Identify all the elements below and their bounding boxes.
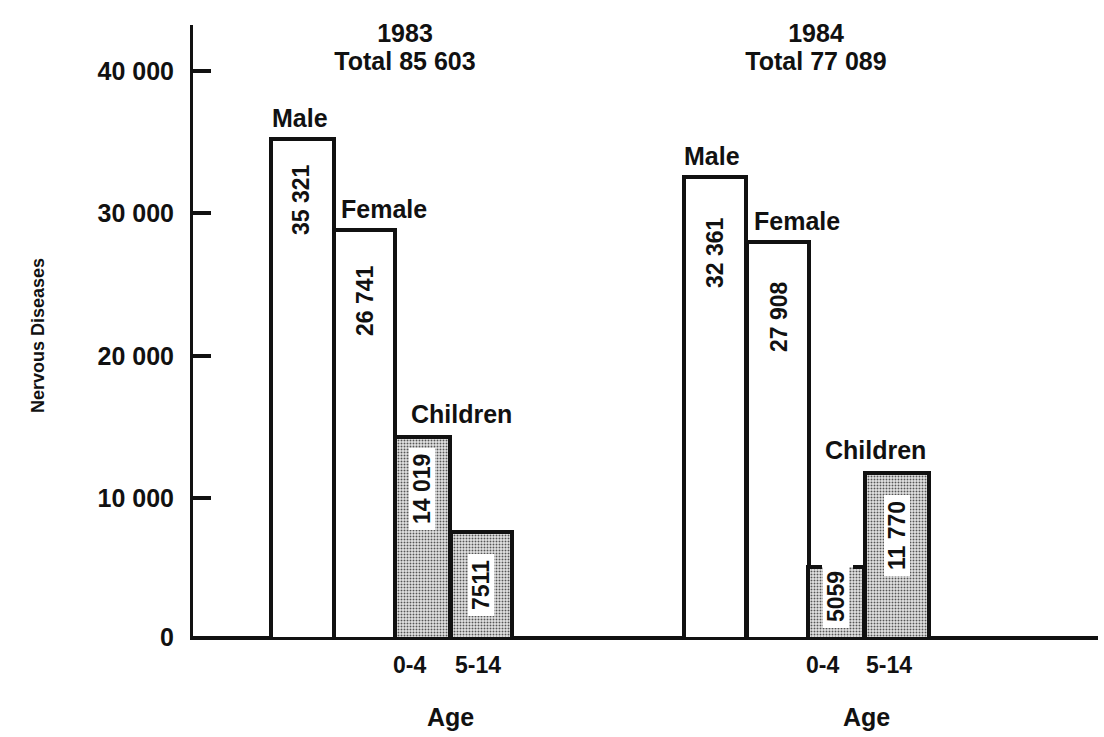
x-label-5-14-1984: 5-14 — [866, 652, 912, 678]
panel-1984-total: Total 77 089 — [716, 46, 916, 76]
y-tick-label-10000: 10 000 — [34, 484, 174, 512]
value-female-1984: 27 908 — [766, 282, 792, 352]
panel-1983-total: Total 85 603 — [305, 46, 505, 76]
x-axis-title-1983: Age — [427, 703, 474, 731]
value-children-5-14-1983: 7511 — [468, 554, 494, 616]
value-male-1984: 32 361 — [702, 218, 728, 288]
value-male-1983: 35 321 — [288, 165, 314, 235]
y-axis-line — [190, 25, 193, 640]
value-children-0-4-1984: 5059 — [823, 565, 849, 628]
y-tick-label-40000: 40 000 — [34, 57, 174, 85]
y-axis-title: Nervous Diseases — [28, 256, 49, 416]
x-label-5-14-1983: 5-14 — [455, 652, 501, 678]
y-tick-10000 — [192, 496, 211, 500]
y-tick-20000 — [192, 354, 211, 358]
x-axis-title-1984: Age — [843, 703, 890, 731]
bar-label-male-1984: Male — [684, 142, 740, 170]
bar-top-stub-left-1984 — [806, 565, 822, 569]
value-children-5-14-1984: 11 770 — [884, 495, 910, 576]
value-children-0-4-1983: 14 019 — [409, 448, 435, 530]
bar-label-children-1984: Children — [825, 436, 926, 464]
y-tick-label-0: 0 — [34, 623, 174, 651]
y-tick-label-20000: 20 000 — [34, 342, 174, 370]
bar-label-male-1983: Male — [272, 104, 328, 132]
x-label-0-4-1984: 0-4 — [806, 652, 839, 678]
panel-1983-year: 1983 — [305, 18, 505, 48]
y-tick-30000 — [192, 211, 211, 215]
bar-label-female-1983: Female — [341, 195, 427, 223]
y-tick-label-30000: 30 000 — [34, 199, 174, 227]
value-female-1983: 26 741 — [352, 266, 378, 336]
bar-label-children-1983: Children — [411, 400, 512, 428]
bar-label-female-1984: Female — [754, 207, 840, 235]
x-label-0-4-1983: 0-4 — [393, 652, 426, 678]
panel-1984-year: 1984 — [716, 18, 916, 48]
y-tick-40000 — [192, 69, 211, 73]
